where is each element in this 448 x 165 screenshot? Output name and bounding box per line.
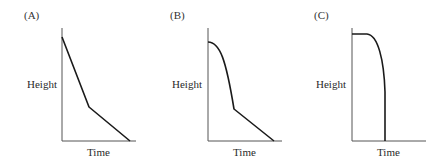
panel-b: (B) Height Time [170, 9, 282, 158]
panel-a: (A) Height Time [24, 9, 136, 158]
x-axis-label-a: Time [87, 146, 110, 158]
y-axis-label-a: Height [27, 78, 57, 90]
height-curve-c [352, 34, 385, 141]
panel-label-a: (A) [24, 9, 40, 22]
x-axis-label-b: Time [233, 146, 256, 158]
panel-c: (C) Height Time [314, 9, 426, 158]
height-curve-a [62, 37, 130, 141]
x-axis-label-c: Time [377, 146, 400, 158]
figure-canvas: (A) Height Time (B) Height Time (C) Heig… [0, 0, 448, 165]
y-axis-label-b: Height [172, 78, 202, 90]
panel-label-c: (C) [314, 9, 329, 22]
panel-label-b: (B) [170, 9, 185, 22]
height-curve-b [208, 42, 274, 141]
y-axis-label-c: Height [316, 78, 346, 90]
